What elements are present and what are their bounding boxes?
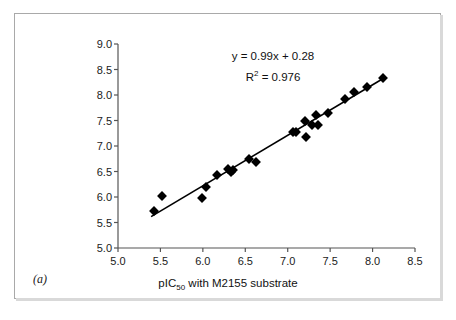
y-tick-label: 6.0 xyxy=(86,191,112,203)
figure-panel: (a) 5.05.56.06.57.07.58.08.59.05.05.56.0… xyxy=(0,0,456,320)
x-tick-label: 5.5 xyxy=(153,255,168,267)
x-tick-label: 7.0 xyxy=(280,255,295,267)
y-tick-label: 7.5 xyxy=(86,115,112,127)
equation-text: y = 0.99x + 0.28 xyxy=(198,48,348,65)
x-axis-title-suffix: with M2155 substrate xyxy=(185,277,298,289)
x-tick-label: 7.5 xyxy=(322,255,337,267)
r-squared-value: = 0.976 xyxy=(258,71,300,83)
x-axis-title: pIC50 with M2155 substrate xyxy=(0,277,456,292)
y-tick-label: 9.0 xyxy=(86,38,112,50)
x-tick-label: 8.0 xyxy=(365,255,380,267)
x-axis-title-subscript: 50 xyxy=(176,283,185,292)
x-axis-title-prefix: pIC xyxy=(158,277,176,289)
y-tick-label: 5.5 xyxy=(86,217,112,229)
y-tick-label: 8.0 xyxy=(86,89,112,101)
x-tick-label: 5.0 xyxy=(110,255,125,267)
x-tick-label: 6.0 xyxy=(195,255,210,267)
r-squared-label: R xyxy=(246,71,254,83)
fit-annotation: y = 0.99x + 0.28 R2 = 0.976 xyxy=(198,48,348,86)
x-tick-label: 6.5 xyxy=(238,255,253,267)
y-tick-label: 6.5 xyxy=(86,166,112,178)
y-tick-label: 5.0 xyxy=(86,242,112,254)
y-tick-label: 7.0 xyxy=(86,140,112,152)
r-squared-text: R2 = 0.976 xyxy=(198,65,348,86)
x-tick-label: 8.5 xyxy=(407,255,422,267)
y-tick-label: 8.5 xyxy=(86,64,112,76)
